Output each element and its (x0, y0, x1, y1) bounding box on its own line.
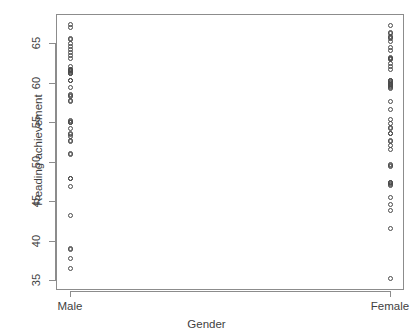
x-axis-line (70, 291, 390, 292)
x-tick-mark (70, 291, 71, 297)
y-tick-label: 65 (26, 38, 46, 49)
y-tick-label-text: 65 (31, 37, 42, 49)
scatter-plot-figure: 35404550556065 Reading achievement MaleF… (0, 0, 413, 332)
y-axis-line (55, 43, 56, 281)
x-tick-label-female: Female (350, 300, 413, 313)
y-tick-mark (49, 43, 55, 44)
y-tick-mark (49, 83, 55, 84)
y-tick-mark (49, 241, 55, 242)
y-tick-mark (49, 122, 55, 123)
x-tick-mark (390, 291, 391, 297)
y-axis-title: Reading achievement (32, 50, 44, 250)
x-tick-label-male: Male (30, 300, 110, 313)
y-tick-mark (49, 162, 55, 163)
plot-frame (56, 14, 404, 290)
y-tick-mark (49, 201, 55, 202)
y-tick-label-text: 35 (31, 274, 42, 286)
x-axis-title: Gender (0, 318, 413, 331)
y-tick-mark (49, 280, 55, 281)
y-tick-label: 35 (26, 275, 46, 286)
